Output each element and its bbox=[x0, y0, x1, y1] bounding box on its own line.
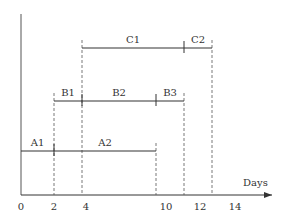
tick-label-4: 4 bbox=[83, 201, 89, 212]
segment-label-A2: A2 bbox=[97, 137, 112, 148]
segment-label-C2: C2 bbox=[191, 34, 205, 45]
segment-label-B1: B1 bbox=[61, 87, 75, 98]
x-axis-label: Days bbox=[243, 177, 268, 188]
tick-label-14: 14 bbox=[229, 201, 242, 212]
segment-label-B2: B2 bbox=[112, 87, 126, 98]
tick-label-12: 12 bbox=[194, 201, 207, 212]
tick-label-10: 10 bbox=[160, 201, 173, 212]
segment-label-C1: C1 bbox=[126, 34, 140, 45]
tick-label-0: 0 bbox=[18, 201, 24, 212]
segment-label-B3: B3 bbox=[163, 87, 177, 98]
timeline-diagram: Days 024101214 A1A2B1B2B3C1C2 bbox=[0, 0, 299, 218]
tick-label-2: 2 bbox=[51, 201, 57, 212]
segment-label-A1: A1 bbox=[30, 137, 45, 148]
